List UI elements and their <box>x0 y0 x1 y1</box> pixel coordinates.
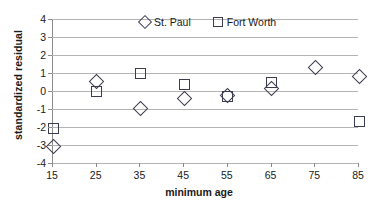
gridline <box>52 37 358 38</box>
y-tick-mark <box>48 55 52 56</box>
x-tick-mark <box>227 163 228 167</box>
x-tick-mark <box>271 163 272 167</box>
y-tick-mark <box>48 37 52 38</box>
square-marker-icon <box>213 17 223 27</box>
x-axis-title: minimum age <box>34 186 364 198</box>
data-point-diamond <box>176 91 192 107</box>
chart-legend: St. Paul Fort Worth <box>140 16 276 28</box>
data-point-diamond <box>45 139 61 155</box>
diamond-marker-icon <box>138 15 152 29</box>
x-tick-mark <box>358 163 359 167</box>
data-point-square <box>48 123 59 134</box>
data-point-square <box>266 77 277 88</box>
x-tick-mark <box>314 163 315 167</box>
y-tick-mark <box>48 145 52 146</box>
y-tick-label: 1 <box>26 68 46 78</box>
x-tick-label: 35 <box>124 169 154 181</box>
x-tick-label: 65 <box>256 169 286 181</box>
x-tick-label: 15 <box>37 169 67 181</box>
gridline <box>52 163 358 164</box>
data-point-diamond <box>264 81 280 97</box>
gridline <box>52 109 358 110</box>
gridline <box>52 73 358 74</box>
y-tick-label: 4 <box>26 14 46 24</box>
y-axis-title: standardized residual <box>12 15 24 155</box>
gridline <box>52 145 358 146</box>
x-tick-label: 25 <box>81 169 111 181</box>
plot-area <box>52 19 358 163</box>
gridline <box>52 55 358 56</box>
y-tick-mark <box>48 91 52 92</box>
x-tick-label: 55 <box>212 169 242 181</box>
legend-item-st-paul: St. Paul <box>140 16 191 28</box>
legend-label-st-paul: St. Paul <box>154 16 191 28</box>
data-point-square <box>354 116 365 127</box>
y-tick-label: -1 <box>26 104 46 114</box>
y-tick-label: 0 <box>26 86 46 96</box>
x-tick-mark <box>139 163 140 167</box>
x-tick-label: 85 <box>343 169 372 181</box>
y-tick-mark <box>48 73 52 74</box>
x-tick-mark <box>183 163 184 167</box>
y-tick-label: -3 <box>26 140 46 150</box>
y-tick-label: -4 <box>26 158 46 168</box>
residual-scatter-chart: standardized residual 43210-1-2-3-4 1525… <box>0 0 372 207</box>
gridline <box>52 127 358 128</box>
legend-item-fort-worth: Fort Worth <box>213 16 276 28</box>
y-tick-label: -2 <box>26 122 46 132</box>
y-tick-mark <box>48 109 52 110</box>
data-point-square <box>179 79 190 90</box>
y-tick-mark <box>48 19 52 20</box>
x-tick-mark <box>96 163 97 167</box>
gridline <box>52 91 358 92</box>
x-tick-label: 45 <box>168 169 198 181</box>
data-point-diamond <box>89 73 105 89</box>
x-tick-mark <box>52 163 53 167</box>
y-tick-label: 2 <box>26 50 46 60</box>
x-tick-label: 75 <box>299 169 329 181</box>
data-point-square <box>222 91 233 102</box>
y-tick-label: 3 <box>26 32 46 42</box>
legend-label-fort-worth: Fort Worth <box>227 16 276 28</box>
y-tick-mark <box>48 127 52 128</box>
data-point-diamond <box>351 69 367 85</box>
